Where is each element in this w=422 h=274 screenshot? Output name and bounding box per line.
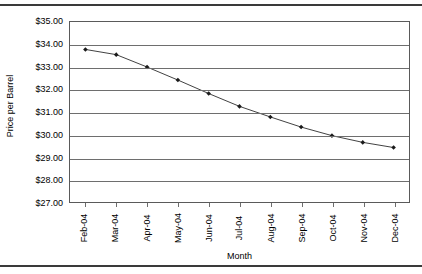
y-axis-tick-label: $32.00 [35,84,63,94]
x-axis-tick-label-text: Apr-04 [142,214,152,241]
x-axis-tick-mark [178,203,179,207]
x-axis-tick-label-text: Dec-04 [390,213,400,242]
data-point-marker [114,52,119,57]
data-point-marker [391,145,396,150]
data-point-marker [83,47,88,52]
x-axis-tick-mark [395,203,396,207]
x-axis-tick-label: Aug-04 [265,209,277,251]
page-rule-top [0,4,422,6]
y-axis-tick-label: $30.00 [35,130,63,140]
x-axis-tick-label: Feb-04 [79,209,91,251]
x-axis-tick-label: Nov-04 [358,209,370,251]
gridline [70,113,409,114]
gridline [70,45,409,46]
y-axis-tick-labels: $35.00$34.00$33.00$32.00$31.00$30.00$29.… [18,8,66,203]
x-axis-tick-label-text: Mar-04 [111,214,121,243]
y-axis-title-label: Price per Barrel [5,74,15,137]
x-axis-tick-label-text: Sep-04 [297,213,307,242]
x-axis-tick-label: Mar-04 [110,209,122,251]
page-rule-bottom [0,265,422,267]
x-axis-tick-mark [271,203,272,207]
x-axis-tick-mark [240,203,241,207]
x-axis-tick-label-text: Oct-04 [328,214,338,241]
x-axis-tick-label: Jul-04 [234,209,246,251]
gridline [70,159,409,160]
plot-area [69,21,410,203]
x-axis-tick-mark [116,203,117,207]
x-axis-tick-label-text: Nov-04 [359,213,369,242]
gridline [70,68,409,69]
y-axis-tick-label: $34.00 [35,39,63,49]
x-axis-tick-label: Dec-04 [389,209,401,251]
data-point-marker [176,78,181,83]
y-axis-tick-label: $35.00 [35,16,63,26]
x-axis-tick-mark [209,203,210,207]
x-axis-tick-mark [302,203,303,207]
x-axis-tick-label-text: Jul-04 [235,216,245,241]
x-axis-tick-label: Oct-04 [327,209,339,251]
x-axis-tick-label: Apr-04 [141,209,153,251]
line-chart-figure: Price per Barrel $35.00$34.00$33.00$32.0… [0,8,422,263]
x-axis-tick-label: Sep-04 [296,209,308,251]
x-axis-title: Month [69,251,410,261]
x-axis-tick-label: May-04 [172,209,184,251]
x-axis-tick-label: Jun-04 [203,209,215,251]
x-axis-tick-label-text: Feb-04 [80,214,90,243]
y-axis-tick-label: $28.00 [35,175,63,185]
data-series-svg [70,22,409,202]
data-point-marker [237,104,242,109]
gridline [70,136,409,137]
x-axis-title-label: Month [227,251,252,261]
x-axis-tick-label-text: Aug-04 [266,213,276,242]
x-axis-tick-label-text: May-04 [173,213,183,243]
x-axis-tick-mark [85,203,86,207]
x-axis-tick-mark [364,203,365,207]
y-axis-tick-label: $29.00 [35,153,63,163]
y-axis-tick-label: $27.00 [35,198,63,208]
x-axis-tick-mark [147,203,148,207]
y-axis-title: Price per Barrel [2,8,18,203]
data-point-marker [299,125,304,130]
y-axis-tick-label: $33.00 [35,62,63,72]
x-axis-tick-mark [333,203,334,207]
gridline [70,181,409,182]
data-point-marker [360,140,365,145]
data-point-marker [206,91,211,96]
gridline [70,90,409,91]
data-point-marker [268,115,273,120]
x-axis-tick-label-text: Jun-04 [204,214,214,242]
y-axis-tick-label: $31.00 [35,107,63,117]
series-line [85,49,393,147]
